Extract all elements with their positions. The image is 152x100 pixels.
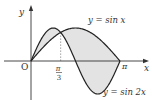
origin-label: O xyxy=(21,62,28,72)
tick-label-pi-over-3-numerator: π xyxy=(55,65,61,73)
tick-label-pi-over-3-denominator: 3 xyxy=(57,74,61,82)
series-label-sin-x: y = sin x xyxy=(87,15,126,25)
y-axis-arrowhead xyxy=(29,5,33,11)
series-label-sin-2x: y = sin 2x xyxy=(102,87,146,97)
y-axis-label: y xyxy=(18,7,25,17)
tick-label-pi: π xyxy=(121,62,128,71)
graph: y x O π 3 π y = sin x y = sin 2x xyxy=(0,0,152,100)
x-axis-label: x xyxy=(144,63,149,73)
